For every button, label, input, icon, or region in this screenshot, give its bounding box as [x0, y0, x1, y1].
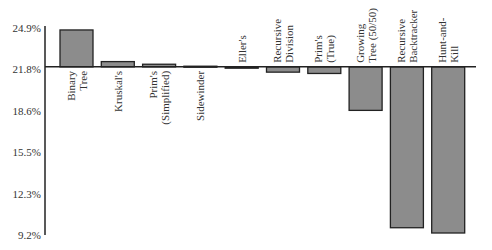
bar [308, 67, 341, 74]
category-label: Hunt-and-Kill [436, 17, 460, 63]
bar [349, 67, 382, 111]
category-label-line: Recursive [395, 19, 407, 63]
category-label-line: Prim's [147, 71, 159, 99]
category-label: GrowingTree (50/50) [354, 8, 379, 63]
bar-chart: 24.9%21.8%18.6%15.5%12.3%9.2% BinaryTree… [0, 0, 492, 250]
category-label-line: Prim's [312, 35, 324, 63]
y-tick-label: 18.6% [13, 105, 41, 117]
category-label-line: Binary [65, 70, 77, 100]
category-label: BinaryTree [65, 70, 89, 100]
y-tick-label: 15.5% [13, 146, 41, 158]
category-label-line: Sidewinder [194, 71, 206, 121]
bar [267, 67, 300, 72]
category-label-line: Eller's [236, 35, 248, 63]
y-tick-label: 12.3% [13, 188, 41, 200]
category-label-line: Recursive [271, 19, 283, 63]
category-label-line: Backtracker [407, 9, 419, 62]
category-label-line: (True) [324, 35, 337, 63]
category-label: Prim's(Simplified) [147, 71, 172, 125]
category-label: Sidewinder [194, 71, 206, 121]
category-label-line: Division [283, 24, 295, 62]
category-label: RecursiveBacktracker [395, 9, 419, 62]
bar [101, 62, 134, 67]
category-label: Kruskal's [112, 71, 124, 112]
category-label: Eller's [236, 35, 248, 63]
y-tick-label: 21.8% [13, 63, 41, 75]
category-label-line: Tree [77, 71, 89, 91]
category-label-line: Hunt-and- [436, 17, 448, 63]
category-label-line: Growing [354, 23, 366, 63]
category-label-line: Kruskal's [112, 71, 124, 112]
y-tick-labels: 24.9%21.8%18.6%15.5%12.3%9.2% [13, 22, 41, 241]
y-tick-label: 24.9% [13, 22, 41, 34]
category-label: Prim's(True) [312, 35, 337, 63]
category-label: RecursiveDivision [271, 19, 295, 63]
bar [60, 30, 93, 67]
y-tick-label: 9.2% [18, 229, 41, 241]
bar [432, 67, 465, 233]
bar [390, 67, 423, 228]
category-label-line: (Simplified) [159, 71, 172, 125]
category-label-line: Kill [448, 46, 460, 63]
category-label-line: Tree (50/50) [366, 8, 379, 63]
